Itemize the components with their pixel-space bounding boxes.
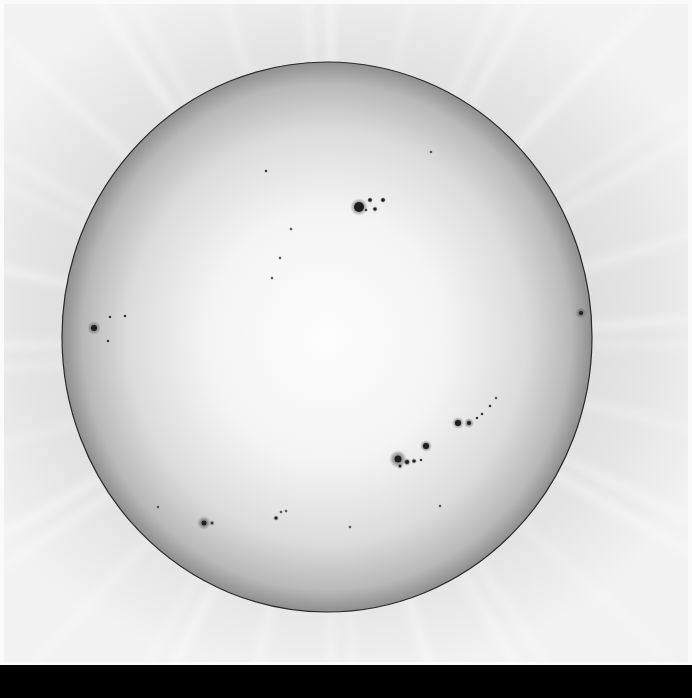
- sunspot-umbra: [285, 510, 287, 512]
- sunspot-umbra: [368, 198, 372, 202]
- sunspot-umbra: [579, 311, 583, 315]
- sunspot-umbra: [271, 277, 273, 279]
- sunspot-umbra: [279, 257, 281, 259]
- sunspot-umbra: [91, 325, 97, 331]
- sunspot-umbra: [365, 209, 367, 211]
- sunspot-umbra: [423, 443, 429, 449]
- sunspot-umbra: [381, 198, 385, 202]
- sunspot-umbra: [354, 202, 364, 212]
- sunspot-umbra: [481, 413, 483, 415]
- sunspot-umbra: [412, 459, 415, 462]
- sunspot-umbra: [202, 521, 207, 526]
- sunspot-umbra: [430, 151, 432, 153]
- sunspot-umbra: [290, 228, 292, 230]
- sunspot-umbra: [439, 505, 441, 507]
- sunspot-umbra: [495, 397, 497, 399]
- west-limb-facula-group: [575, 307, 587, 319]
- sunspot-umbra: [395, 456, 402, 463]
- sunspot-umbra: [467, 421, 471, 425]
- sunspot-umbra: [157, 506, 159, 508]
- solar-disk: [62, 62, 592, 612]
- image-frame: [0, 0, 692, 665]
- sunspot-umbra: [265, 170, 267, 172]
- sunspot-umbra: [373, 207, 376, 210]
- sunspot-umbra: [349, 526, 351, 528]
- sunspot-umbra: [107, 340, 109, 342]
- sunspot-umbra: [455, 420, 461, 426]
- bottom-black-bar: [0, 665, 692, 698]
- sunspot-umbra: [109, 316, 111, 318]
- sunspot-umbra: [489, 405, 491, 407]
- sunspot-umbra: [211, 522, 213, 524]
- sunspot-umbra: [275, 517, 278, 520]
- sunspot-umbra: [405, 460, 409, 464]
- sunspot-umbra: [280, 511, 282, 513]
- solar-disk-figure: [0, 0, 692, 665]
- sunspot-umbra: [420, 459, 422, 461]
- sunspot-umbra: [476, 417, 478, 419]
- sunspot-umbra: [124, 315, 126, 317]
- sunspot-umbra: [399, 465, 401, 467]
